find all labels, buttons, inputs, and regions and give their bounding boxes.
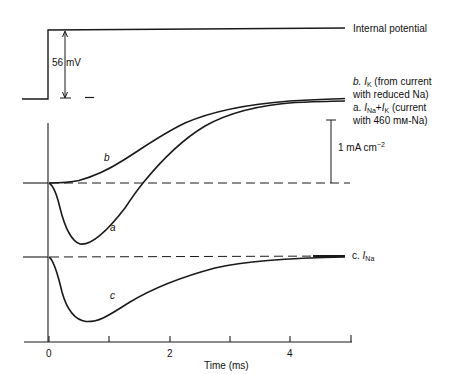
scale-bar: [326, 120, 336, 183]
xtick-label-0: 0: [46, 348, 52, 360]
legend-c: c. INa: [352, 250, 374, 265]
curve-b-ik: [49, 99, 345, 184]
legend-a-line2: with 460 mм-Na): [353, 115, 428, 127]
time-axis: [24, 335, 352, 342]
voltage-step-label: 56 mV: [52, 57, 81, 69]
xtick-label-4: 4: [287, 348, 293, 360]
curve-label-a: a: [110, 222, 116, 234]
internal-potential-label: Internal potential: [353, 23, 427, 35]
curve-c-ina: [49, 257, 345, 322]
lower-baseline: [50, 256, 345, 257]
legend-b-line2: with reduced Na): [353, 89, 429, 101]
curve-label-c: c: [110, 290, 115, 302]
curve-label-b: b: [104, 152, 110, 164]
curve-a-ina-ik: [49, 101, 345, 244]
x-axis-label: Time (ms): [204, 360, 249, 372]
xtick-label-2: 2: [167, 348, 173, 360]
scale-bar-label: 1 mA cm−2: [338, 139, 385, 154]
